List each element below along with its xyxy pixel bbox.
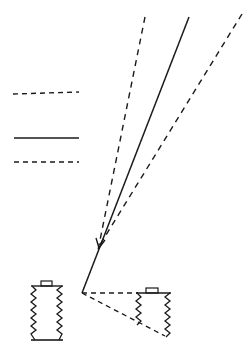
- right-dashed-ray: [98, 14, 242, 248]
- left-bellows-right-zigzag: [57, 286, 62, 340]
- projection-lines: [82, 293, 165, 336]
- left-bellows-cap: [41, 281, 52, 286]
- right-bellows-left-zigzag: [136, 293, 141, 325]
- left-bellows: [31, 281, 63, 340]
- projection-line-bottom: [82, 293, 165, 336]
- diagram-canvas: [0, 0, 252, 353]
- left-dashed-ray: [98, 17, 145, 250]
- rays: [82, 14, 242, 293]
- legend-dashed-line-top: [13, 92, 79, 94]
- legend: [13, 92, 79, 162]
- left-bellows-left-zigzag: [31, 286, 36, 340]
- right-bellows-cap: [146, 288, 158, 293]
- center-solid-ray: [82, 17, 189, 293]
- right-bellows-right-zigzag: [165, 293, 170, 337]
- right-bellows: [136, 288, 171, 337]
